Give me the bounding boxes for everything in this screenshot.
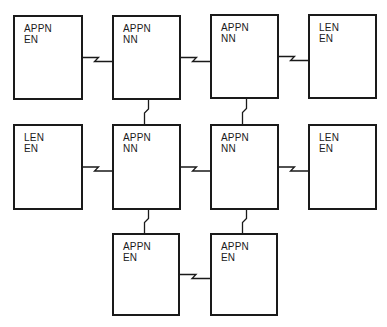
node-role-label: EN bbox=[24, 34, 38, 45]
node-appn-nn-mid-1: APPN NN bbox=[112, 124, 181, 210]
link-n2-n6 bbox=[145, 100, 149, 124]
node-role-label: NN bbox=[221, 33, 236, 44]
node-len-en-mid-left: LEN EN bbox=[13, 124, 83, 210]
node-role-label: EN bbox=[319, 143, 333, 154]
link-n3-n4 bbox=[279, 57, 308, 61]
link-n1-n2 bbox=[83, 58, 112, 62]
node-type-label: LEN bbox=[319, 22, 339, 33]
node-role-label: EN bbox=[221, 252, 235, 263]
link-n9-n10 bbox=[180, 275, 210, 279]
node-type-label: LEN bbox=[319, 132, 339, 143]
link-n7-n10 bbox=[243, 210, 247, 233]
node-type-label: APPN bbox=[123, 23, 151, 34]
node-appn-en-bottom-left: APPN EN bbox=[112, 233, 180, 316]
node-role-label: NN bbox=[123, 143, 138, 154]
link-n5-n6 bbox=[83, 167, 112, 171]
node-len-en-top-right: LEN EN bbox=[308, 14, 377, 99]
node-appn-nn-top-1: APPN NN bbox=[112, 15, 181, 100]
node-type-label: APPN bbox=[24, 23, 52, 34]
link-n7-n8 bbox=[279, 167, 308, 171]
link-n3-n7 bbox=[243, 99, 247, 124]
node-type-label: APPN bbox=[123, 241, 151, 252]
node-appn-en-top-left: APPN EN bbox=[13, 15, 83, 100]
link-n6-n7 bbox=[181, 167, 210, 171]
node-type-label: APPN bbox=[221, 241, 249, 252]
node-type-label: APPN bbox=[221, 22, 249, 33]
node-appn-nn-top-2: APPN NN bbox=[210, 14, 279, 99]
node-appn-nn-mid-2: APPN NN bbox=[210, 124, 279, 210]
link-n2-n3 bbox=[181, 58, 210, 62]
node-type-label: APPN bbox=[123, 132, 151, 143]
node-role-label: EN bbox=[123, 252, 137, 263]
node-appn-en-bottom-right: APPN EN bbox=[210, 233, 278, 316]
node-len-en-mid-right: LEN EN bbox=[308, 124, 377, 210]
node-role-label: EN bbox=[24, 143, 38, 154]
node-role-label: NN bbox=[123, 34, 138, 45]
link-n6-n9 bbox=[145, 210, 149, 233]
appn-network-diagram: APPN EN APPN NN APPN NN LEN EN LEN EN AP… bbox=[0, 0, 387, 327]
node-type-label: LEN bbox=[24, 132, 44, 143]
node-role-label: EN bbox=[319, 33, 333, 44]
node-type-label: APPN bbox=[221, 132, 249, 143]
node-role-label: NN bbox=[221, 143, 236, 154]
